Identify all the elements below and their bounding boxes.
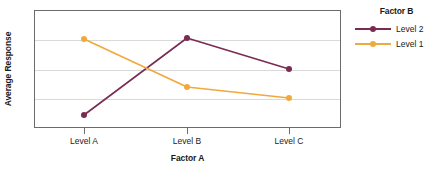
- interaction-plot: Average Response Level A Level B Level C…: [0, 0, 442, 181]
- legend-swatch-level-2: [355, 24, 391, 34]
- x-tick-level-c: [289, 128, 290, 134]
- y-axis-title: Average Response: [3, 9, 13, 129]
- legend-label-level-2: Level 2: [391, 24, 423, 34]
- x-tick-level-a: [84, 128, 85, 134]
- legend-title: Factor B: [355, 6, 440, 16]
- x-tick-level-b: [187, 128, 188, 134]
- data-point-level-1-b: [184, 84, 190, 90]
- x-axis-title: Factor A: [34, 153, 341, 163]
- x-label-level-c: Level C: [275, 136, 304, 146]
- data-point-level-1-c: [286, 95, 292, 101]
- plot-area: [34, 10, 341, 128]
- legend-label-level-1: Level 1: [391, 39, 423, 49]
- gridline-lower: [35, 99, 340, 100]
- gridline-middle: [35, 70, 340, 71]
- legend: Factor B Level 2 Level 1: [355, 6, 440, 51]
- data-point-level-2-a: [81, 112, 87, 118]
- data-point-level-2-b: [184, 35, 190, 41]
- legend-swatch-level-1: [355, 39, 391, 49]
- x-label-level-b: Level B: [173, 136, 201, 146]
- legend-item-level-2[interactable]: Level 2: [355, 21, 440, 36]
- x-label-level-a: Level A: [70, 136, 98, 146]
- data-point-level-2-c: [286, 66, 292, 72]
- legend-item-level-1[interactable]: Level 1: [355, 36, 440, 51]
- data-point-level-1-a: [81, 36, 87, 42]
